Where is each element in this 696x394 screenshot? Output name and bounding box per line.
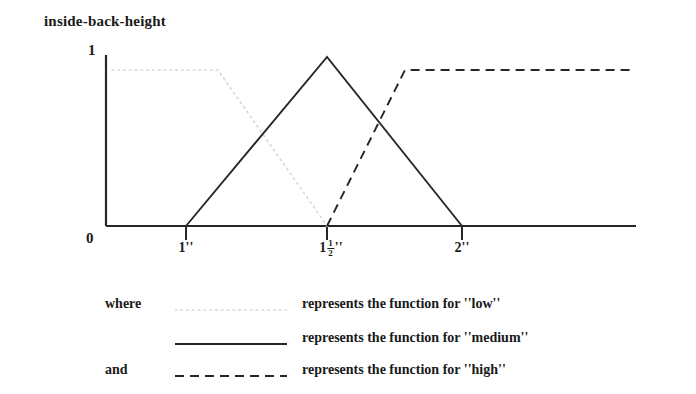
dotted-line-sample <box>175 302 287 314</box>
legend-row-low: where represents the function for ''low'… <box>0 296 696 318</box>
legend-row-medium: represents the function for ''medium'' <box>0 330 696 352</box>
legend-label-low: represents the function for ''low'' <box>302 296 500 312</box>
solid-line-sample <box>175 336 287 348</box>
dashed-line-sample <box>175 368 287 380</box>
legend-row-high: and represents the function for ''high'' <box>0 362 696 384</box>
legend-label-high: represents the function for ''high'' <box>302 362 506 378</box>
legend: where represents the function for ''low'… <box>0 0 696 394</box>
legend-label-medium: represents the function for ''medium'' <box>302 330 528 346</box>
fuzzy-membership-figure: inside-back-height 1 0 1'' 112'' 2'' whe… <box>0 0 696 394</box>
legend-prefix-where: where <box>105 296 141 312</box>
legend-prefix-and: and <box>105 362 128 378</box>
